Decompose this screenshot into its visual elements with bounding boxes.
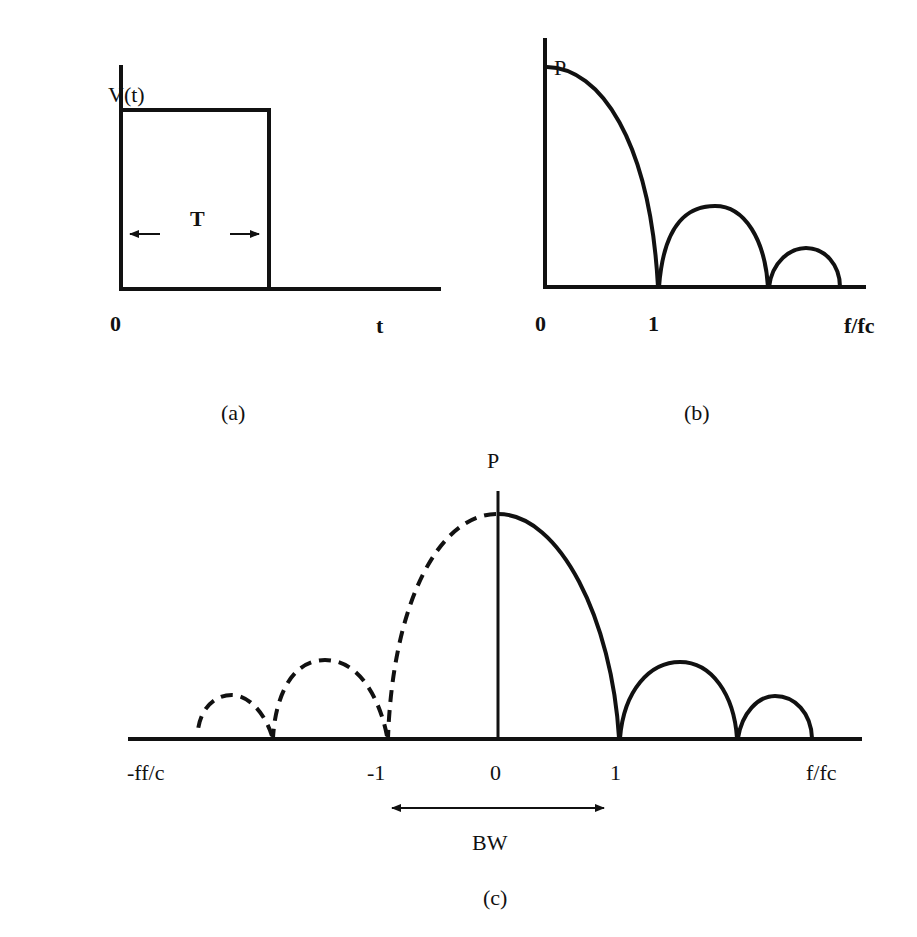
panel-b-xlabel: f/fc [844,313,875,338]
side-lobe-1 [659,206,768,287]
figure: V(t) T 0 t (a) P 0 1 f/fc (b) P - [0,0,917,937]
panel-c-tick-0: 0 [490,760,501,785]
panel-c: P -ff/c -1 0 1 f/fc BW (c) [127,448,862,910]
panel-c-ylabel: P [487,448,499,473]
panel-a-xlabel: t [376,313,384,338]
positive-side-lobe-1 [620,662,737,738]
panel-b-caption: (b) [684,400,710,425]
positive-main-lobe [498,514,619,738]
panel-c-xlabel: f/fc [806,760,837,785]
panel-c-left-label: -ff/c [127,760,165,785]
panel-a-origin-label: 0 [110,311,121,336]
panel-c-caption: (c) [483,885,507,910]
panel-a-caption: (a) [221,400,245,425]
panel-b-tick-1: 1 [648,311,659,336]
negative-side-lobe-1 [273,660,387,738]
panel-a: V(t) T 0 t (a) [108,65,441,425]
positive-side-lobe-2 [738,696,812,738]
main-lobe [547,67,658,287]
panel-b: P 0 1 f/fc (b) [535,38,875,425]
panel-a-ylabel: V(t) [108,82,145,107]
negative-main-lobe [388,514,496,738]
bandwidth-label: BW [472,830,508,855]
panel-c-tick-neg1: -1 [367,760,385,785]
panel-b-origin-label: 0 [535,311,546,336]
side-lobe-2 [769,248,840,287]
pulse-width-label: T [190,206,205,231]
panel-c-tick-1: 1 [610,760,621,785]
negative-side-lobe-2 [198,695,272,736]
rectangular-pulse [123,110,269,289]
